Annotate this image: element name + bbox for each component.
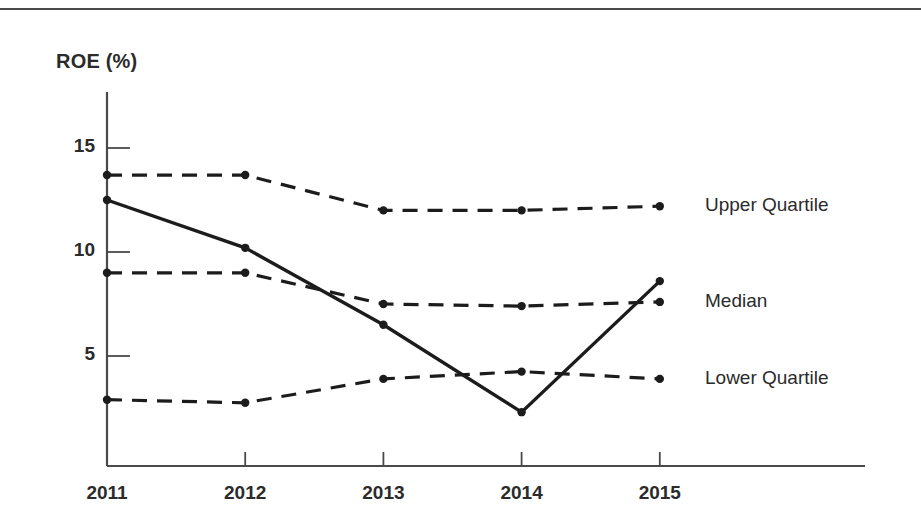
data-point-marker (241, 244, 249, 252)
data-point-marker (656, 375, 664, 383)
series-label-upper-quartile: Upper Quartile (705, 194, 829, 216)
series-label-median: Median (705, 290, 767, 312)
data-point-marker (656, 298, 664, 306)
x-tick-label: 2011 (52, 482, 162, 504)
series-label-lower-quartile: Lower Quartile (705, 367, 829, 389)
line-chart-plot (0, 0, 921, 532)
data-point-marker (379, 206, 387, 214)
x-tick-label: 2014 (467, 482, 577, 504)
chart-axes (107, 92, 865, 466)
data-point-marker (103, 171, 111, 179)
data-point-marker (517, 367, 525, 375)
y-tick-label: 5 (49, 343, 95, 365)
data-point-marker (103, 395, 111, 403)
data-point-marker (241, 171, 249, 179)
data-point-marker (656, 202, 664, 210)
series-line-upper-quartile (107, 175, 660, 210)
data-point-marker (241, 269, 249, 277)
x-tick-label: 2015 (605, 482, 715, 504)
data-point-marker (656, 277, 664, 285)
x-tick-label: 2013 (328, 482, 438, 504)
data-point-marker (517, 408, 525, 416)
data-point-marker (517, 302, 525, 310)
data-point-marker (103, 196, 111, 204)
chart-figure: ROE (%) 15105 20112012201320142015 Upper… (0, 0, 921, 532)
data-point-marker (517, 206, 525, 214)
y-tick-label: 15 (49, 135, 95, 157)
x-axis-ticks (107, 452, 660, 466)
y-tick-label: 10 (49, 239, 95, 261)
data-point-marker (379, 300, 387, 308)
data-point-marker (103, 269, 111, 277)
data-point-marker (241, 399, 249, 407)
y-axis-ticks (107, 148, 130, 356)
data-point-marker (379, 321, 387, 329)
x-tick-label: 2012 (190, 482, 300, 504)
data-point-marker (379, 375, 387, 383)
